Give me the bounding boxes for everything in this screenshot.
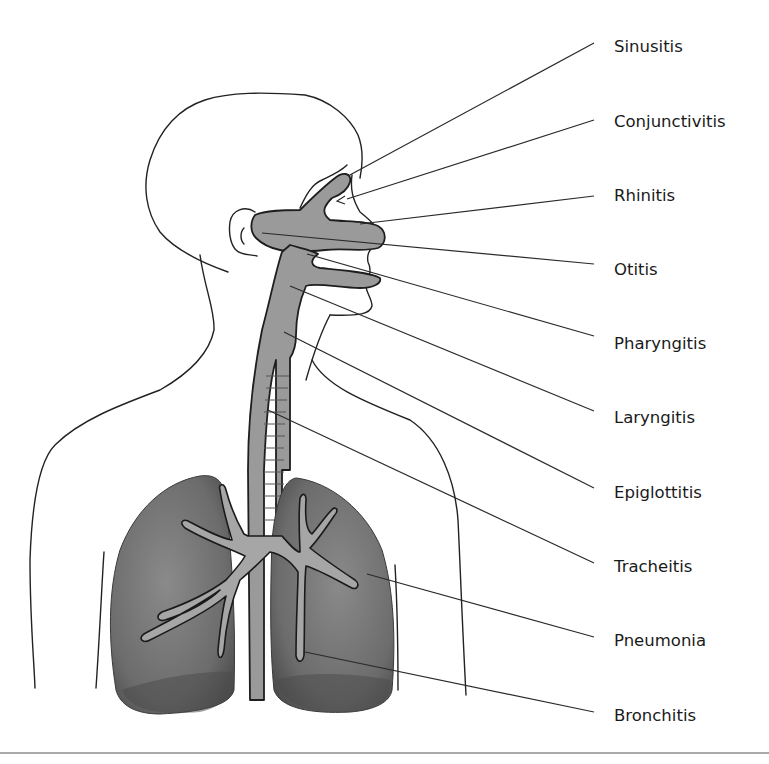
ear-inner <box>241 228 244 244</box>
neck-front <box>306 315 330 380</box>
label-conjunctivitis: Conjunctivitis <box>614 112 726 131</box>
leader-rhinitis <box>360 196 594 224</box>
respiratory-infection-diagram: Sinusitis Conjunctivitis Rhinitis Otitis… <box>0 0 769 764</box>
label-otitis: Otitis <box>614 260 658 279</box>
label-epiglottitis: Epiglottitis <box>614 483 702 502</box>
label-sinusitis: Sinusitis <box>614 37 683 56</box>
leader-sinusitis <box>348 43 594 176</box>
label-pneumonia: Pneumonia <box>614 631 706 650</box>
sinus-nasal-region <box>251 174 384 252</box>
label-laryngitis: Laryngitis <box>614 408 695 427</box>
labels: Sinusitis Conjunctivitis Rhinitis Otitis… <box>613 37 726 725</box>
label-pharyngitis: Pharyngitis <box>614 334 706 353</box>
label-bronchitis: Bronchitis <box>614 706 696 725</box>
leader-pneumonia <box>367 574 594 637</box>
leader-pharyngitis <box>307 254 594 336</box>
leader-epiglottitis <box>284 332 594 488</box>
leader-conjunctivitis <box>347 120 594 199</box>
conjunctivitis-arrow <box>337 196 345 204</box>
left-arm-line <box>96 552 104 688</box>
label-tracheitis: Tracheitis <box>613 557 692 576</box>
leader-laryngitis <box>290 286 594 411</box>
body-outline <box>30 93 466 695</box>
label-rhinitis: Rhinitis <box>614 186 675 205</box>
